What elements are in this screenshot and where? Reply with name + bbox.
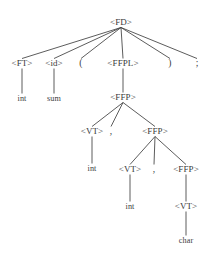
tree-edge-ffp1-to-vt1 bbox=[92, 103, 123, 127]
tree-node-fd: <FD> bbox=[110, 17, 132, 27]
tree-edge-ffp2-to-ffp3 bbox=[155, 137, 186, 165]
tree-node-int1: int bbox=[18, 94, 28, 103]
tree-node-lparen: ( bbox=[79, 58, 82, 69]
tree-node-comma1: , bbox=[110, 126, 112, 136]
tree-edge-ffp2-to-comma2 bbox=[154, 137, 155, 165]
tree-edge-fd-to-rparen bbox=[121, 28, 170, 59]
tree-node-comma2: , bbox=[153, 164, 155, 174]
tree-node-layer: <FD><FT><id>(<FFPL>);intsum<FFP><VT>,<FF… bbox=[11, 17, 198, 245]
tree-node-ffpl: <FFPL> bbox=[107, 58, 138, 68]
tree-node-semicolon: ; bbox=[196, 58, 199, 68]
tree-edge-ffp1-to-comma1 bbox=[111, 103, 123, 127]
tree-node-char: char bbox=[179, 236, 194, 245]
tree-edge-fd-to-semicolon bbox=[121, 28, 197, 59]
tree-node-rparen: ) bbox=[168, 58, 171, 69]
tree-node-ft: <FT> bbox=[11, 58, 32, 68]
tree-node-ffp1: <FFP> bbox=[110, 92, 136, 102]
tree-node-int2: int bbox=[88, 164, 98, 173]
parse-tree-figure: <FD><FT><id>(<FFPL>);intsum<FFP><VT>,<FF… bbox=[0, 0, 212, 259]
tree-node-vt3: <VT> bbox=[175, 201, 198, 211]
tree-node-id: <id> bbox=[45, 58, 63, 68]
parse-tree-svg: <FD><FT><id>(<FFPL>);intsum<FFP><VT>,<FF… bbox=[0, 0, 212, 259]
tree-edge-fd-to-ffpl bbox=[121, 28, 123, 59]
tree-edge-fd-to-ft bbox=[22, 28, 121, 59]
tree-node-sum: sum bbox=[47, 94, 61, 103]
tree-node-vt2: <VT> bbox=[119, 164, 142, 174]
tree-node-vt1: <VT> bbox=[81, 126, 104, 136]
tree-edge-ffp2-to-vt2 bbox=[130, 137, 155, 165]
tree-node-ffp2: <FFP> bbox=[142, 126, 168, 136]
tree-node-int3: int bbox=[126, 202, 136, 211]
tree-edge-ffp1-to-ffp2 bbox=[123, 103, 155, 127]
tree-node-ffp3: <FFP> bbox=[173, 164, 199, 174]
